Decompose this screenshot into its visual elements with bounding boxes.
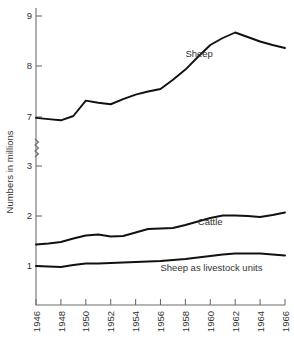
x-tick-label: 1950 [80,311,91,332]
x-tick-label: 1954 [130,311,141,332]
x-tick-label: 1962 [230,311,241,332]
x-tick-label: 1952 [105,311,116,332]
chart-container: 987321 194619481950195219541956195819601… [0,0,294,348]
y-tick-label: 7 [27,111,32,122]
y-tick-label: 1 [27,260,32,271]
x-tick-label: 1956 [155,311,166,332]
x-tick-label: 1960 [205,311,216,332]
x-tick-label: 1946 [31,311,42,332]
line-chart: 987321 194619481950195219541956195819601… [0,0,294,348]
y-tick-label: 2 [27,210,32,221]
plot-background [0,0,294,348]
series-label-sheep-as-livestock-units: Sheep as livestock units [161,262,263,273]
x-tick-label: 1958 [180,311,191,332]
y-tick-label: 8 [27,60,32,71]
series-label-cattle: Cattle [198,216,223,227]
x-tick-label: 1948 [56,311,67,332]
x-tick-label: 1964 [255,311,266,332]
y-tick-label: 3 [27,160,32,171]
series-label-sheep: Sheep [185,48,212,59]
x-tick-label: 1966 [280,311,291,332]
y-tick-label: 9 [27,10,32,21]
y-axis-title-text: Numbers in millions [4,130,15,213]
y-axis-title: Numbers in millions [4,130,15,213]
